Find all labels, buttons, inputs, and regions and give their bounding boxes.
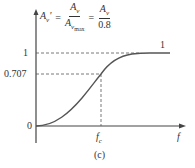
x-tick-fc: fc	[96, 132, 102, 145]
figure-caption: (c)	[94, 150, 105, 160]
y-tick-zero: 0	[27, 121, 32, 131]
equals-sign-2: =	[89, 12, 95, 23]
gain-curve	[36, 53, 170, 126]
y-axis-label: Av'	[40, 10, 51, 24]
y-axis-formula: Av' = Av Avmax = Av 0.8	[40, 2, 111, 32]
y-tick-one: 1	[23, 48, 28, 58]
fraction-av-over-0-8: Av 0.8	[98, 4, 111, 30]
fraction-av-over-avmax: Av Avmax	[65, 2, 85, 32]
curve-label: 1	[160, 40, 165, 50]
x-axis-arrow-icon	[179, 124, 186, 129]
x-axis-label: f	[177, 132, 180, 142]
y-tick-0707: 0.707	[4, 69, 27, 79]
y-axis-arrow-icon	[34, 9, 39, 15]
equals-sign: =	[55, 12, 61, 23]
